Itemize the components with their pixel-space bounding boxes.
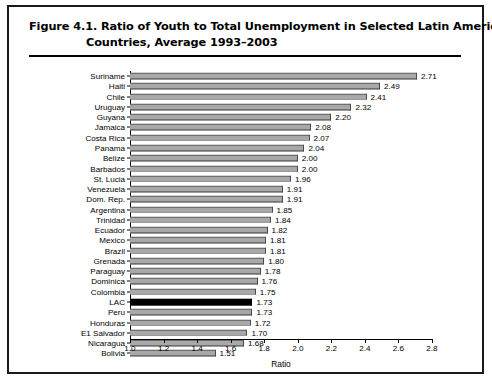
bar	[130, 93, 367, 100]
bar	[130, 299, 252, 306]
bar-value-label: 2.08	[315, 123, 331, 132]
bar-row: Bolivia1.51	[130, 348, 432, 358]
bar	[130, 247, 266, 254]
figure-title-line-1: Figure 4.1. Ratio of Youth to Total Unem…	[29, 19, 461, 35]
bar-row: Guyana2.20	[130, 112, 432, 122]
bar-row: Ecuador1.82	[130, 225, 432, 235]
x-axis-tick	[298, 339, 299, 343]
bar	[130, 104, 351, 111]
x-axis-tick	[398, 339, 399, 343]
x-axis-tick-label: 2.6	[393, 344, 404, 353]
category-label: Argentina	[90, 205, 125, 214]
category-label: Ecuador	[95, 226, 125, 235]
bar	[130, 165, 298, 172]
category-label: Belize	[103, 154, 125, 163]
x-axis-title: Ratio	[130, 359, 432, 369]
category-label: Paraguay	[90, 267, 125, 276]
bar	[130, 288, 256, 295]
bar-row: Grenada1.80	[130, 256, 432, 266]
bar-value-label: 1.75	[260, 287, 276, 296]
bar-value-label: 1.96	[295, 174, 311, 183]
category-label: Guyana	[97, 113, 125, 122]
x-axis-tick	[264, 339, 265, 343]
x-axis-tick	[130, 339, 131, 343]
bar	[130, 196, 283, 203]
category-label: Venezuela	[87, 185, 125, 194]
x-axis-line	[130, 339, 432, 340]
bar-value-label: 2.32	[355, 102, 371, 111]
x-axis-tick-label: 1.4	[191, 344, 202, 353]
x-axis-tick-label: 1.6	[225, 344, 236, 353]
bar	[130, 206, 273, 213]
bar	[130, 73, 417, 80]
bar-row: Uruguay2.32	[130, 102, 432, 112]
bar-row: St. Lucia1.96	[130, 174, 432, 184]
bar	[130, 258, 264, 265]
x-axis-tick	[197, 339, 198, 343]
x-axis-tick-label: 1.8	[259, 344, 270, 353]
bar-value-label: 2.04	[308, 143, 324, 152]
bar-row: Dom. Rep.1.91	[130, 194, 432, 204]
category-label: Jamaica	[95, 123, 125, 132]
x-axis-tick-label: 1.2	[158, 344, 169, 353]
bar	[130, 309, 252, 316]
category-label: Suriname	[90, 72, 125, 81]
bar	[130, 227, 268, 234]
bar-value-label: 1.81	[270, 236, 286, 245]
bar-row: Trinidad1.84	[130, 215, 432, 225]
category-label: Bolivia	[101, 349, 125, 358]
bar	[130, 134, 310, 141]
category-label: Peru	[108, 308, 125, 317]
category-label: Dominica	[91, 277, 125, 286]
bar-row: Jamaica2.08	[130, 122, 432, 132]
bar-value-label: 1.84	[275, 215, 291, 224]
bar	[130, 186, 283, 193]
bar-row: Honduras1.72	[130, 317, 432, 327]
figure-title-line-2: Countries, Average 1993–2003	[29, 35, 461, 51]
x-axis-tick-label: 2.8	[426, 344, 437, 353]
bar-row: E1 Salvador1.70	[130, 328, 432, 338]
category-label: Uruguay	[94, 102, 125, 111]
bar-value-label: 1.73	[256, 308, 272, 317]
bar-row: Mexico1.81	[130, 235, 432, 245]
x-axis-tick-label: 2.4	[359, 344, 370, 353]
bar-row: Suriname2.71	[130, 71, 432, 81]
bar-value-label: 1.85	[277, 205, 293, 214]
x-axis-tick-label: 2.0	[292, 344, 303, 353]
x-axis-tick	[164, 339, 165, 343]
category-label: Trinidad	[96, 215, 125, 224]
category-label: Nicaragua	[88, 339, 125, 348]
bar-row: Belize2.00	[130, 153, 432, 163]
category-label: Brazil	[105, 246, 125, 255]
bar-value-label: 1.81	[270, 246, 286, 255]
bar-value-label: 2.20	[335, 113, 351, 122]
bar-value-label: 1.76	[262, 277, 278, 286]
category-label: Colombia	[91, 287, 125, 296]
bar-value-label: 2.71	[421, 72, 437, 81]
bar	[130, 145, 304, 152]
category-label: Haiti	[109, 82, 125, 91]
bar	[130, 237, 266, 244]
bar-value-label: 1.73	[256, 297, 272, 306]
bar-value-label: 1.91	[287, 185, 303, 194]
category-label: Mexico	[99, 236, 125, 245]
bar-row: Argentina1.85	[130, 204, 432, 214]
bar-row: Chile2.41	[130, 92, 432, 102]
bar	[130, 278, 258, 285]
bar-row: Dominica1.76	[130, 276, 432, 286]
bar	[130, 268, 261, 275]
bar	[130, 155, 298, 162]
category-label: St. Lucia	[94, 174, 126, 183]
bar-row: Peru1.73	[130, 307, 432, 317]
bar-value-label: 2.07	[314, 133, 330, 142]
bar-row: Barbados2.00	[130, 163, 432, 173]
bar-value-label: 1.82	[272, 226, 288, 235]
x-axis-tick	[432, 339, 433, 343]
bar-value-label: 1.80	[268, 256, 284, 265]
bar-row: Colombia1.75	[130, 287, 432, 297]
bar-row: Haiti2.49	[130, 81, 432, 91]
bar	[130, 114, 331, 121]
title-divider	[29, 55, 461, 57]
category-label: Panama	[95, 143, 125, 152]
category-label: Costa Rica	[85, 133, 125, 142]
